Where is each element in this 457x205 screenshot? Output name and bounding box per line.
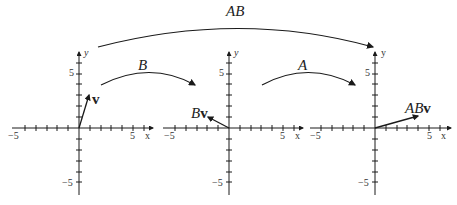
y-axis-label: y bbox=[234, 48, 238, 58]
tick-y-min: −5 bbox=[212, 178, 223, 188]
plot-2 bbox=[163, 52, 303, 195]
ticks bbox=[25, 63, 144, 182]
tick-y-max: 5 bbox=[219, 68, 224, 78]
tick-y-min: −5 bbox=[62, 178, 73, 188]
tick-x-min: −5 bbox=[8, 131, 19, 141]
ticks bbox=[321, 63, 440, 182]
plot-1 bbox=[12, 52, 153, 195]
plot-3 bbox=[310, 52, 451, 195]
arrow-AB bbox=[98, 29, 373, 48]
x-axis-label: x bbox=[441, 131, 446, 141]
x-axis-label: x bbox=[295, 131, 300, 141]
label-AB: AB bbox=[226, 4, 244, 19]
x-axis-label: x bbox=[145, 131, 150, 141]
tick-x-max: 5 bbox=[130, 131, 135, 141]
tick-x-max: 5 bbox=[280, 131, 285, 141]
tick-y-min: −5 bbox=[358, 178, 369, 188]
y-axis-label: y bbox=[381, 48, 386, 58]
diagram-canvas bbox=[0, 0, 457, 205]
vector-label-v: v bbox=[92, 92, 100, 107]
tick-y-max: 5 bbox=[365, 68, 370, 78]
arrow-A bbox=[262, 73, 355, 86]
label-B: B bbox=[138, 58, 147, 73]
vector-v bbox=[79, 95, 89, 128]
tick-x-max: 5 bbox=[427, 131, 432, 141]
arrow-B bbox=[101, 73, 195, 86]
tick-x-min: −5 bbox=[310, 131, 321, 141]
vector-label-ABv: ABv bbox=[405, 101, 431, 116]
vector-label-Bv: Bv bbox=[191, 106, 208, 121]
label-A: A bbox=[298, 58, 307, 73]
tick-x-min: −5 bbox=[164, 131, 175, 141]
y-axis-label: y bbox=[84, 48, 88, 58]
ticks bbox=[175, 63, 294, 182]
tick-y-max: 5 bbox=[69, 68, 74, 78]
